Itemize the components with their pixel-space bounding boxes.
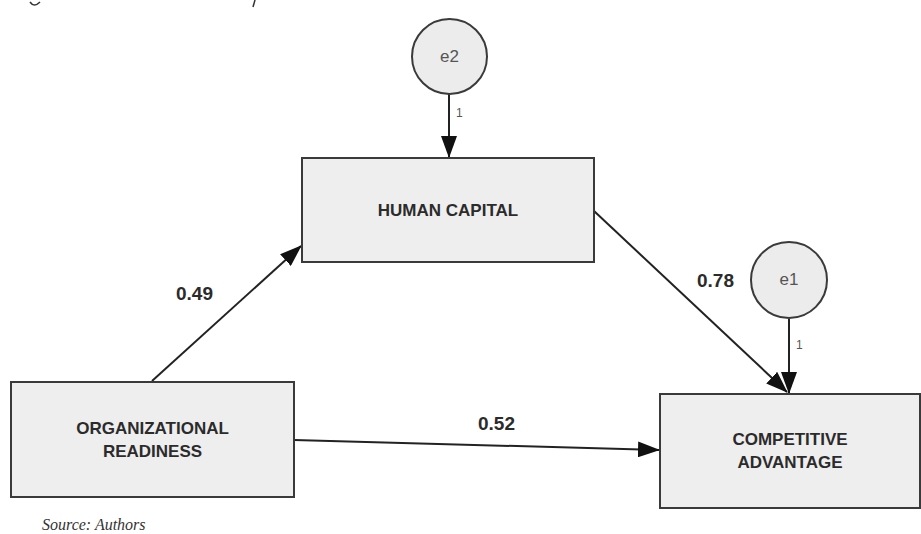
human-capital-label: HUMAN CAPITAL — [378, 199, 518, 222]
comp-advantage-line2: ADVANTAGE — [732, 451, 847, 474]
coefficient-hc-ca: 0.78 — [697, 270, 734, 292]
coefficient-or-ca: 0.52 — [478, 413, 515, 435]
e2-fixed-loading: 1 — [456, 106, 463, 120]
e2-label: e2 — [440, 47, 459, 67]
e1-fixed-loading: 1 — [796, 338, 803, 352]
org-readiness-line1: ORGANIZATIONAL — [76, 417, 229, 440]
path-or-ca — [294, 440, 659, 450]
org-readiness-line2: READINESS — [76, 440, 229, 463]
comp-advantage-line1: COMPETITIVE — [732, 428, 847, 451]
clipped-caption — [30, 0, 255, 7]
e1-label: e1 — [780, 270, 799, 290]
path-or-hc — [152, 246, 301, 381]
node-organizational-readiness: ORGANIZATIONAL READINESS — [10, 381, 295, 498]
coefficient-or-hc: 0.49 — [176, 283, 213, 305]
node-competitive-advantage: COMPETITIVE ADVANTAGE — [659, 393, 921, 509]
error-term-e1: e1 — [750, 241, 828, 319]
node-human-capital: HUMAN CAPITAL — [301, 157, 595, 263]
source-note: Source: Authors — [42, 516, 146, 534]
error-term-e2: e2 — [411, 18, 488, 95]
